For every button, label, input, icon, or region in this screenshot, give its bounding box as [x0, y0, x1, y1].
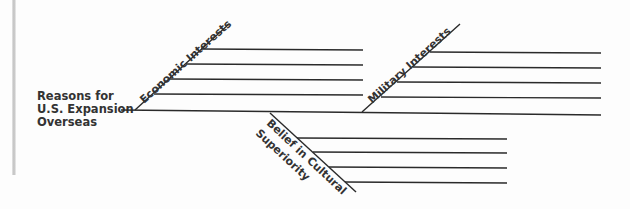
fishbone-diagram: Economic Interests Military Interests Be…: [0, 0, 630, 209]
main-spine: [121, 110, 601, 115]
branch-label-economic: Economic Interests: [137, 17, 234, 106]
branch-label-military: Military Interests: [365, 25, 454, 107]
